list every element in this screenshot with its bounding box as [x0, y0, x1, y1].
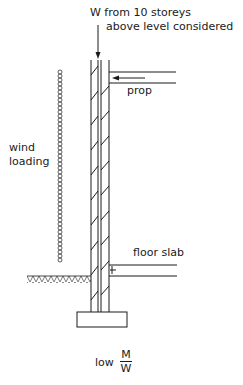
- load-label-line2: above level considered: [106, 21, 233, 33]
- floor-slab-label: floor slab: [133, 247, 184, 259]
- vertical-load-arrow-icon: [96, 25, 101, 59]
- ratio-prefix: low: [95, 357, 114, 369]
- diagram-canvas: [0, 0, 243, 385]
- wind-label-line2: loading: [9, 156, 50, 168]
- prop-arrow-icon: [112, 76, 145, 81]
- prop-label: prop: [127, 85, 152, 97]
- wind-loading-column: [58, 70, 62, 262]
- ratio-numerator: M: [120, 349, 132, 360]
- floor-slab: [109, 265, 177, 276]
- load-label-line1: W from 10 storeys: [90, 7, 191, 19]
- wall: [91, 60, 109, 312]
- footing: [77, 312, 127, 327]
- wind-label-line1: wind: [9, 142, 35, 154]
- ratio-denominator: W: [120, 363, 132, 374]
- ground-hatch: [27, 276, 91, 283]
- wall-hatching: [91, 66, 109, 300]
